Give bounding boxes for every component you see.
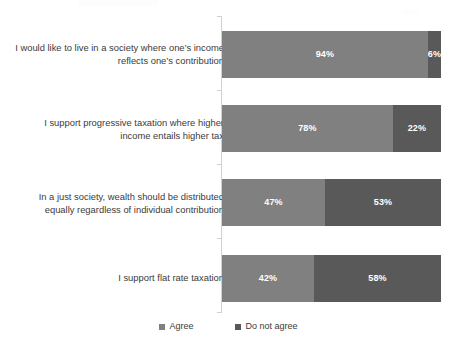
title-remnant: [78, 0, 158, 6]
legend-label: Agree: [169, 322, 193, 331]
category-label-0: I would like to live in a society where …: [14, 41, 224, 67]
bar-segment-agree[interactable]: 42%: [222, 255, 314, 302]
category-label-1: I support progressive taxation where hig…: [14, 116, 224, 142]
bar-segment-do-not-agree[interactable]: 53%: [325, 179, 441, 226]
title-remnant-secondary: [404, 9, 418, 14]
legend-item-agree[interactable]: Agree: [159, 322, 193, 331]
bar-value-label: 47%: [264, 198, 282, 207]
table-row: 78% 22%: [222, 105, 441, 152]
bar-segment-agree[interactable]: 78%: [222, 105, 393, 152]
legend-swatch-icon: [159, 324, 165, 330]
category-label-3: I support flat rate taxation: [14, 271, 224, 284]
bar-value-label: 42%: [259, 274, 277, 283]
bar-segment-do-not-agree[interactable]: 58%: [314, 255, 441, 302]
bar-value-label: 6%: [428, 50, 441, 59]
plot-area: 94% 6% 78% 22% 47% 53%: [222, 16, 441, 313]
axis-tick-1: [217, 90, 221, 91]
bar-value-label: 22%: [408, 124, 426, 133]
axis-tick-4: [217, 312, 221, 313]
axis-tick-3: [217, 238, 221, 239]
axis-tick-2: [217, 164, 221, 165]
category-label-2: In a just society, wealth should be dist…: [14, 190, 224, 216]
legend-item-do-not-agree[interactable]: Do not agree: [235, 322, 297, 331]
axis-tick-0: [217, 16, 221, 17]
bar-segment-agree[interactable]: 47%: [222, 179, 325, 226]
table-row: 94% 6%: [222, 31, 441, 78]
bar-value-label: 58%: [368, 274, 386, 283]
table-row: 42% 58%: [222, 255, 441, 302]
bar-segment-agree[interactable]: 94%: [222, 31, 428, 78]
bar-value-label: 78%: [298, 124, 316, 133]
table-row: 47% 53%: [222, 179, 441, 226]
bar-value-label: 94%: [316, 50, 334, 59]
bar-segment-do-not-agree[interactable]: 22%: [393, 105, 441, 152]
bar-value-label: 53%: [374, 198, 392, 207]
legend-label: Do not agree: [245, 322, 297, 331]
bar-segment-do-not-agree[interactable]: 6%: [428, 31, 441, 78]
chart-legend: Agree Do not agree: [0, 322, 457, 331]
legend-swatch-icon: [235, 324, 241, 330]
stacked-bar-chart: I would like to live in a society where …: [0, 0, 457, 352]
